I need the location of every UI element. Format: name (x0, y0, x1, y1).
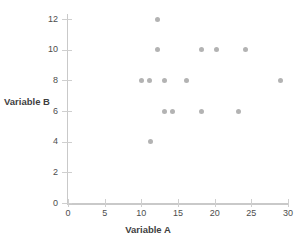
x-tick-label: 5 (93, 209, 117, 218)
data-point (243, 47, 248, 52)
y-tick-mark (62, 203, 72, 204)
data-point (155, 17, 160, 22)
y-tick-label: 2 (28, 168, 58, 177)
data-point (148, 139, 153, 144)
x-tick-label: 30 (276, 209, 296, 218)
x-axis-title: Variable A (0, 224, 296, 235)
data-point (184, 78, 189, 83)
x-tick-label: 25 (239, 209, 263, 218)
x-tick-mark (288, 199, 289, 207)
data-point (214, 47, 219, 52)
y-tick-label: 0 (28, 199, 58, 208)
y-tick-label: 8 (28, 76, 58, 85)
data-point (236, 109, 241, 114)
y-axis-title: Variable B (4, 96, 50, 107)
x-tick-label: 15 (166, 209, 190, 218)
y-tick-label: 4 (28, 137, 58, 146)
y-tick-label: 12 (28, 15, 58, 24)
data-point (170, 109, 175, 114)
data-point (162, 78, 167, 83)
scatter-chart: 024681012 051015202530 Variable B Variab… (0, 0, 296, 241)
data-point (199, 47, 204, 52)
y-tick-label: 10 (28, 45, 58, 54)
data-point (278, 78, 283, 83)
plot-area (68, 14, 288, 203)
x-tick-label: 10 (129, 209, 153, 218)
data-point (155, 47, 160, 52)
y-tick-label: 6 (28, 107, 58, 116)
x-tick-label: 20 (203, 209, 227, 218)
x-tick-label: 0 (56, 209, 80, 218)
data-point (199, 109, 204, 114)
data-point (162, 109, 167, 114)
data-point (147, 78, 152, 83)
data-point (139, 78, 144, 83)
